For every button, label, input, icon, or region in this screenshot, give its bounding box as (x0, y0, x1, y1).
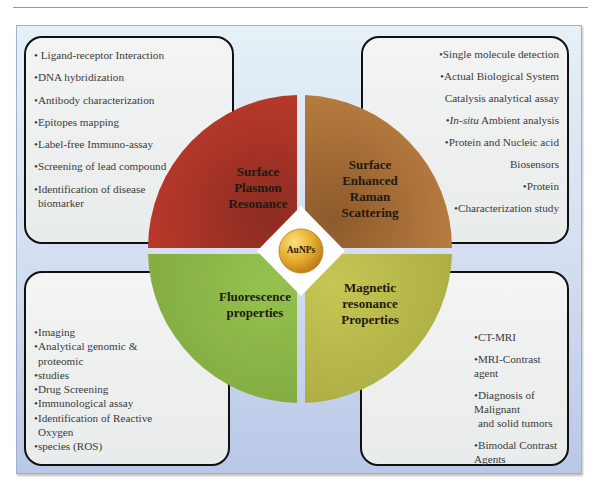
quadrant-fluorescence (148, 254, 297, 403)
label-line: Raman (320, 189, 420, 205)
label-line: properties (200, 305, 310, 321)
label-line: Magnetic (320, 280, 420, 296)
label-line: Surface (320, 157, 420, 173)
quadrant-label-mri: Magnetic resonance Properties (320, 280, 420, 328)
quadrant-label-sers: Surface Enhanced Raman Scattering (320, 157, 420, 221)
label-line: Surface (213, 164, 303, 180)
quadrant-label-spr: Surface Plasmon Resonance (213, 164, 303, 212)
label-line: Resonance (213, 196, 303, 212)
quadrant-label-fluorescence: Fluorescence properties (200, 289, 310, 321)
label-line: Scattering (320, 205, 420, 221)
label-line: Fluorescence (200, 289, 310, 305)
label-line: Enhanced (320, 173, 420, 189)
label-line: Properties (320, 312, 420, 328)
label-line: resonance (320, 296, 420, 312)
label-line: Plasmon (213, 180, 303, 196)
center-label-aunps: AuNPs (280, 232, 322, 268)
quadrant-mri (305, 254, 452, 403)
